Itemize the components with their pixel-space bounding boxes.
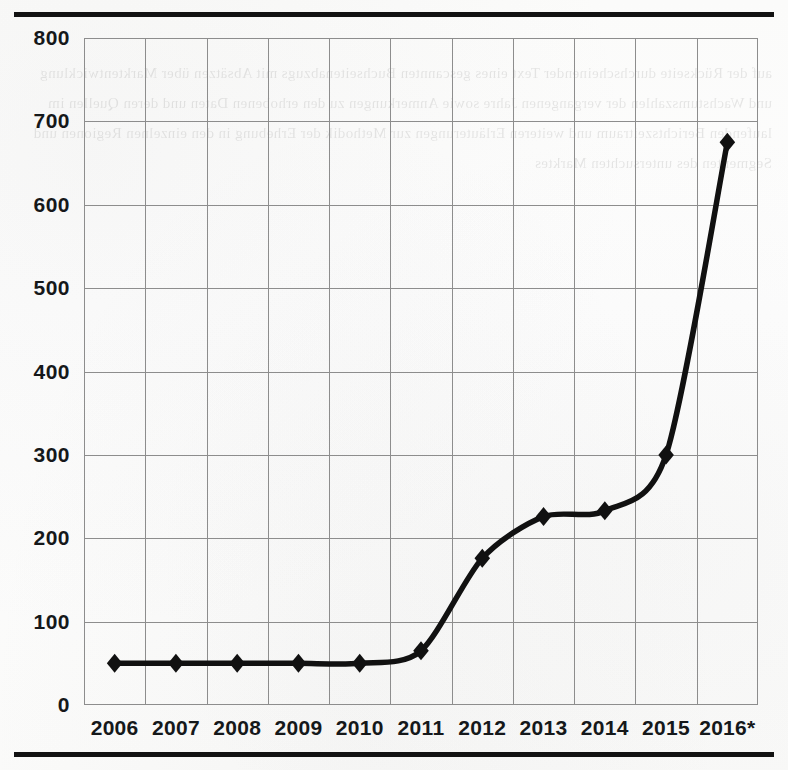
x-axis-tick-label: 2016* xyxy=(699,716,755,740)
gridline-horizontal xyxy=(84,288,758,289)
y-axis-tick-label: 400 xyxy=(33,360,70,384)
x-axis-tick-label: 2011 xyxy=(398,716,445,740)
gridline-vertical xyxy=(697,38,698,705)
y-axis-tick-label: 200 xyxy=(33,526,70,550)
gridline-vertical xyxy=(513,38,514,705)
bottom-horizontal-rule xyxy=(14,752,774,757)
gridline-vertical xyxy=(207,38,208,705)
x-axis-tick-label: 2015 xyxy=(642,716,690,740)
gridline-vertical xyxy=(329,38,330,705)
gridline-horizontal xyxy=(84,622,758,623)
gridline-horizontal xyxy=(84,121,758,122)
top-horizontal-rule xyxy=(14,12,774,17)
y-axis-tick-label: 0 xyxy=(58,693,70,717)
y-axis-tick-label: 100 xyxy=(33,610,70,634)
gridline-horizontal xyxy=(84,455,758,456)
chart-page: auf der Rückseite durchscheinender Text … xyxy=(0,0,788,770)
y-axis-tick-label: 700 xyxy=(33,109,70,133)
x-axis-tick-label: 2010 xyxy=(336,716,384,740)
y-axis-tick-label: 300 xyxy=(33,443,70,467)
gridline-horizontal xyxy=(84,205,758,206)
gridline-vertical xyxy=(145,38,146,705)
x-axis-tick-label: 2013 xyxy=(520,716,568,740)
gridline-vertical xyxy=(635,38,636,705)
gridline-horizontal xyxy=(84,538,758,539)
gridline-vertical xyxy=(390,38,391,705)
gridline-vertical xyxy=(574,38,575,705)
gridline-vertical xyxy=(268,38,269,705)
x-axis-tick-label: 2006 xyxy=(91,716,139,740)
gridline-vertical xyxy=(452,38,453,705)
y-axis-tick-label: 800 xyxy=(33,26,70,50)
y-axis-tick-label: 600 xyxy=(33,193,70,217)
x-axis-tick-label: 2007 xyxy=(152,716,200,740)
gridline-horizontal xyxy=(84,372,758,373)
x-axis-tick-label: 2014 xyxy=(581,716,629,740)
x-axis-tick-label: 2009 xyxy=(274,716,322,740)
y-axis-tick-label: 500 xyxy=(33,276,70,300)
chart-plot-area xyxy=(84,38,758,705)
x-axis-tick-label: 2012 xyxy=(458,716,506,740)
x-axis-tick-label: 2008 xyxy=(213,716,261,740)
